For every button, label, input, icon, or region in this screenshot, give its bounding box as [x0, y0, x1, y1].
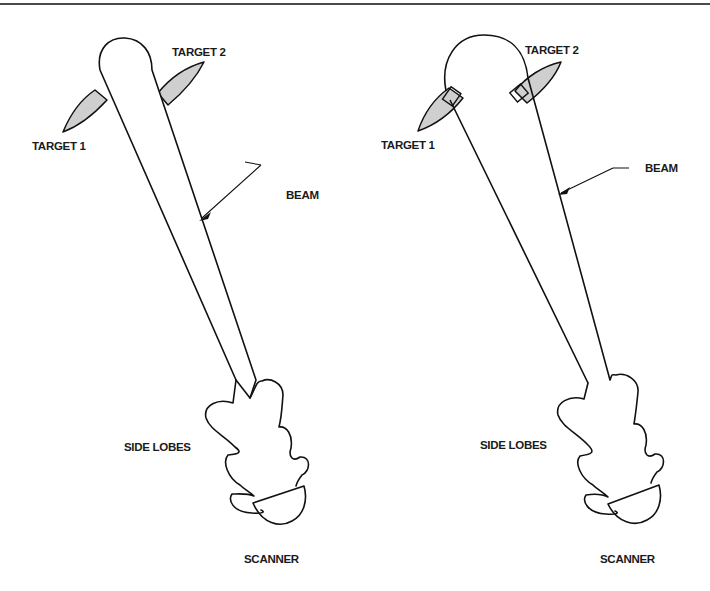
target-1-shape	[63, 90, 107, 132]
right-target-1-label: TARGET 1	[381, 139, 436, 151]
left-target-1-label: TARGET 1	[32, 140, 87, 152]
right-scanner-label: SCANNER	[600, 553, 656, 565]
left-target-2-label: TARGET 2	[172, 46, 226, 58]
right-side-lobes-label: SIDE LOBES	[480, 439, 547, 451]
side-lobes	[558, 374, 664, 514]
scanner-dish	[608, 485, 661, 523]
beam-diagram: TARGET 2 TARGET 1 BEAM SIDE LOBES SCANNE…	[0, 0, 710, 591]
target-2-shape	[515, 62, 561, 103]
right-target-2-label: TARGET 2	[525, 44, 579, 56]
left-scanner-label: SCANNER	[244, 553, 300, 565]
beam-leader-line	[202, 162, 261, 218]
left-side-lobes-label: SIDE LOBES	[124, 441, 191, 453]
right-beam-label: BEAM	[645, 162, 678, 174]
target-1-shape	[418, 88, 463, 131]
side-lobes	[206, 380, 309, 514]
left-beam-label: BEAM	[286, 189, 319, 201]
beam-leader-line	[561, 168, 629, 193]
target-2-shape	[158, 62, 204, 105]
scanner-dish	[253, 486, 306, 524]
